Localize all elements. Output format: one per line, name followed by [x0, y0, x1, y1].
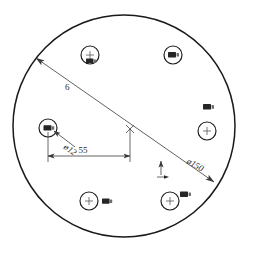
drawing-svg: 6 55 ø12 ø150: [0, 0, 255, 258]
hole-tag-glyph-icon: [180, 192, 191, 197]
dimension-label-hole-diameter: ø12: [61, 141, 79, 158]
hole-center-mark: [166, 197, 174, 205]
hole-tag-glyph-icon: [102, 199, 112, 204]
bolt-hole-right: [198, 104, 216, 140]
bolt-hole-top-left: [81, 46, 99, 64]
bolt-hole-bottom-right: [161, 192, 191, 211]
hole-center-mark: [86, 51, 94, 59]
hole-center-mark: [85, 197, 93, 205]
hole-tag-glyph-icon: [203, 104, 214, 110]
hole-tag-glyph-icon: [44, 125, 55, 130]
hole-tag-glyph-icon: [86, 59, 96, 64]
bolt-hole-bottom-left: [80, 192, 112, 210]
bolt-hole-top-right: [164, 46, 182, 64]
hole-center-mark: [203, 127, 211, 135]
dimension-label-outer-diameter: ø150: [184, 156, 206, 174]
dimension-label-thickness: 6: [65, 82, 70, 92]
center-leader-mark: [157, 161, 169, 179]
engineering-drawing-canvas: 6 55 ø12 ø150: [0, 0, 255, 258]
hole-tag-glyph-icon: [168, 52, 179, 57]
dimension-label-bolt-circle: 55: [79, 145, 89, 155]
